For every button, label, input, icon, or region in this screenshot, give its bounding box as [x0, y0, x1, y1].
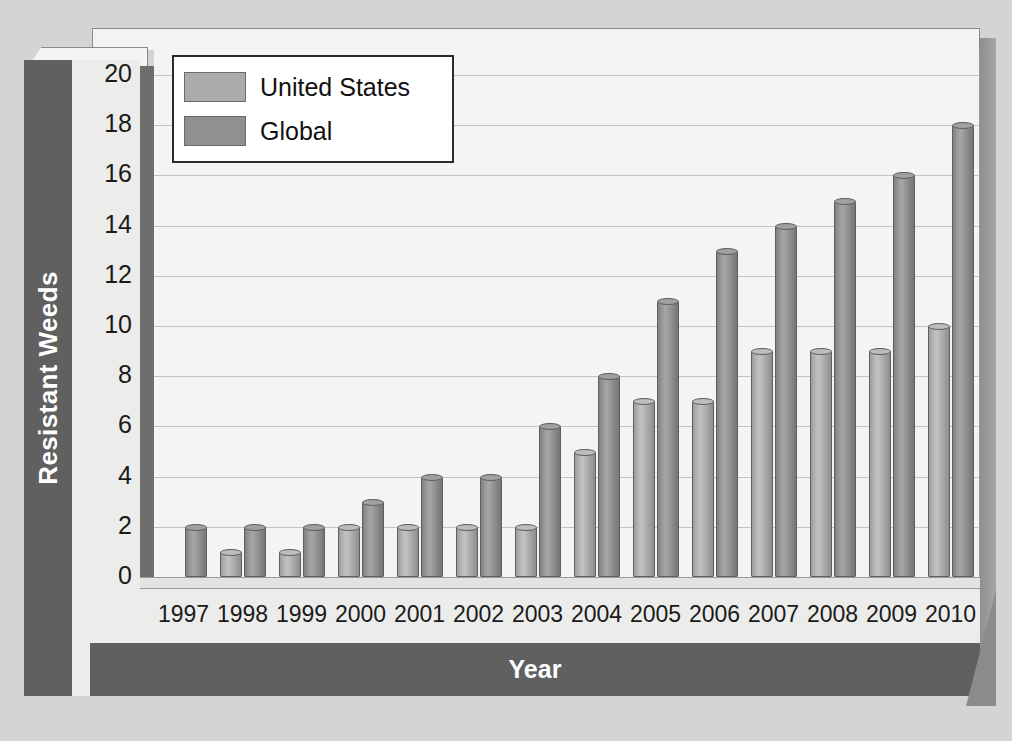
x-axis-title-panel: Year — [90, 643, 980, 696]
x-axis-label-band: 1997199819992000200120022003200420052006… — [90, 589, 980, 643]
y-axis-tick-label: 16 — [74, 159, 132, 188]
bar-united-states-2000[interactable] — [338, 527, 360, 577]
y-axis-tick-label: 10 — [74, 310, 132, 339]
x-axis-tick-label: 1997 — [154, 601, 213, 628]
bar-group — [449, 50, 508, 577]
bar-united-states-2009[interactable] — [869, 351, 891, 577]
x-axis-tick-label: 2007 — [744, 601, 803, 628]
bar-global-1998[interactable] — [244, 527, 266, 577]
x-axis-tick-label: 1999 — [272, 601, 331, 628]
bar-united-states-2008[interactable] — [810, 351, 832, 577]
bar-global-2009[interactable] — [893, 175, 915, 577]
y-axis-title-panel: Resistant Weeds — [24, 60, 73, 696]
bar-group — [744, 50, 803, 577]
bar-group — [862, 50, 921, 577]
bar-global-1999[interactable] — [303, 527, 325, 577]
legend-swatch-icon-global — [184, 116, 246, 146]
bar-global-1997[interactable] — [185, 527, 207, 577]
bar-global-2002[interactable] — [480, 477, 502, 577]
y-axis-tick-label: 18 — [74, 109, 132, 138]
bar-global-2003[interactable] — [539, 426, 561, 577]
x-axis-tick-labels: 1997199819992000200120022003200420052006… — [154, 589, 980, 643]
bar-united-states-1999[interactable] — [279, 552, 301, 577]
x-axis-tick-label: 2009 — [862, 601, 921, 628]
bar-united-states-2007[interactable] — [751, 351, 773, 577]
x-axis-tick-label: 2001 — [390, 601, 449, 628]
legend-item-united-states[interactable]: United States — [184, 72, 442, 102]
y-axis-tick-label: 14 — [74, 210, 132, 239]
x-axis-tick-label: 2010 — [921, 601, 980, 628]
bar-group — [803, 50, 862, 577]
bar-united-states-2004[interactable] — [574, 452, 596, 577]
x-axis-tick-label: 2000 — [331, 601, 390, 628]
bar-global-2008[interactable] — [834, 201, 856, 577]
y-axis-tick-label: 20 — [74, 59, 132, 88]
y-axis-tick-label: 4 — [74, 461, 132, 490]
x-axis-title: Year — [509, 655, 562, 684]
bar-united-states-1998[interactable] — [220, 552, 242, 577]
x-axis-tick-label: 2008 — [803, 601, 862, 628]
bar-united-states-2010[interactable] — [928, 326, 950, 577]
y-axis-title: Resistant Weeds — [24, 60, 72, 696]
chart-legend: United States Global — [172, 55, 454, 163]
bar-united-states-2002[interactable] — [456, 527, 478, 577]
bar-global-2005[interactable] — [657, 301, 679, 577]
bar-united-states-2006[interactable] — [692, 401, 714, 577]
x-axis-tick-label: 2002 — [449, 601, 508, 628]
bar-global-2006[interactable] — [716, 251, 738, 577]
legend-item-global[interactable]: Global — [184, 116, 442, 146]
chart-container: Resistant Weeds 02468101214161820 199719… — [0, 0, 1012, 741]
y-axis-tick-label: 2 — [74, 511, 132, 540]
legend-label-global: Global — [260, 117, 332, 146]
y-axis-tick-label: 0 — [74, 561, 132, 590]
bar-group — [508, 50, 567, 577]
bar-group — [567, 50, 626, 577]
bar-global-2000[interactable] — [362, 502, 384, 577]
bar-united-states-2003[interactable] — [515, 527, 537, 577]
x-axis-tick-label: 2004 — [567, 601, 626, 628]
bar-group — [685, 50, 744, 577]
bar-global-2010[interactable] — [952, 125, 974, 577]
x-axis-tick-label: 2005 — [626, 601, 685, 628]
bar-global-2007[interactable] — [775, 226, 797, 577]
bar-group — [626, 50, 685, 577]
x-axis-tick-label: 1998 — [213, 601, 272, 628]
chart-top-slab — [92, 28, 980, 50]
bar-global-2004[interactable] — [598, 376, 620, 577]
y-axis-tick-label: 8 — [74, 360, 132, 389]
y-axis-tick-label: 12 — [74, 260, 132, 289]
y-axis-tick-label: 6 — [74, 410, 132, 439]
bar-united-states-2005[interactable] — [633, 401, 655, 577]
x-axis-tick-label: 2006 — [685, 601, 744, 628]
legend-swatch-icon-united-states — [184, 72, 246, 102]
legend-label-united-states: United States — [260, 73, 410, 102]
bar-united-states-2001[interactable] — [397, 527, 419, 577]
bar-global-2001[interactable] — [421, 477, 443, 577]
plot-floor — [140, 577, 980, 589]
bar-group — [921, 50, 980, 577]
x-axis-tick-label: 2003 — [508, 601, 567, 628]
